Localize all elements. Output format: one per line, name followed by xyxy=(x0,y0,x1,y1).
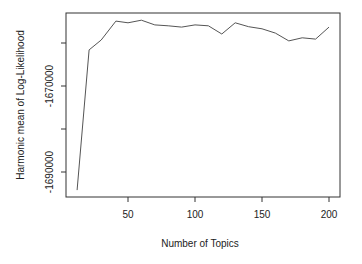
chart: -1670000-1690000 50100150200 Number of T… xyxy=(0,0,362,264)
plot-frame xyxy=(66,13,340,197)
y-tick-label: -1690000 xyxy=(44,150,55,193)
x-tick-label: 200 xyxy=(321,209,338,220)
y-axis: -1670000-1690000 xyxy=(44,43,66,193)
x-axis: 50100150200 xyxy=(122,197,337,220)
x-tick-label: 100 xyxy=(187,209,204,220)
x-tick-label: 150 xyxy=(254,209,271,220)
y-axis-title: Harmonic mean of Log-Likelihood xyxy=(15,30,26,180)
data-line xyxy=(77,20,329,190)
y-tick-label: -1670000 xyxy=(44,64,55,107)
x-tick-label: 50 xyxy=(122,209,134,220)
x-axis-title: Number of Topics xyxy=(161,238,239,249)
